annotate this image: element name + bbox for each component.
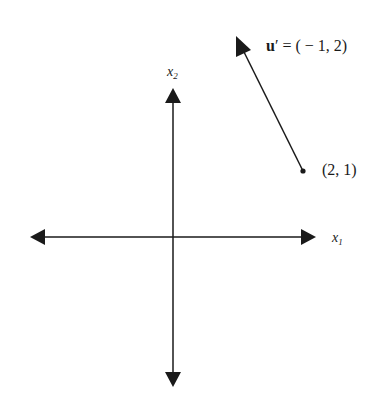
x1-axis-label: x1 [331,230,343,247]
tail-point-label: (2, 1) [322,161,357,179]
x1-axis-right-arrow-icon [301,229,316,245]
vector-diagram: x2 x1 u′ = ( − 1, 2) (2, 1) [0,0,385,413]
x2-axis-down-arrow-icon [165,372,181,387]
x1-axis-left-arrow-icon [30,229,45,245]
vector-arrowhead-icon [236,36,251,57]
tail-point-dot [300,168,305,173]
x2-axis-up-arrow-icon [165,88,181,103]
vector-u-prime [236,36,306,174]
x2-axis-label: x2 [166,64,178,81]
vector-label: u′ = ( − 1, 2) [266,37,347,55]
